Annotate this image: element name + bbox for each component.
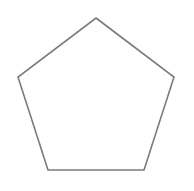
diagram-canvas bbox=[0, 0, 194, 191]
pentagon-shape bbox=[18, 18, 174, 170]
